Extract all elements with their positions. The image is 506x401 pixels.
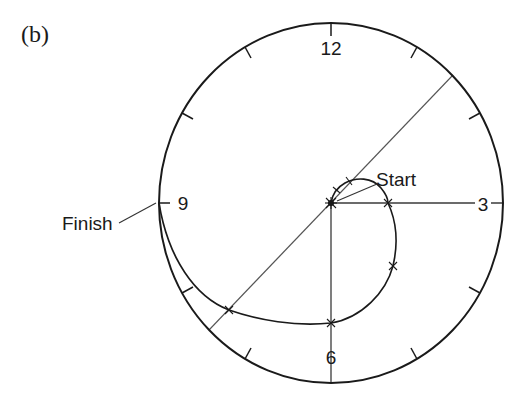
panel-label: (b) bbox=[21, 21, 49, 47]
marker-6 bbox=[225, 306, 233, 314]
tick-1 bbox=[411, 47, 417, 58]
hour-label-3: 3 bbox=[478, 194, 489, 215]
clock-diagram: (b) 12 3 6 9 bbox=[0, 0, 506, 401]
trajectory-path bbox=[159, 179, 396, 324]
tick-8 bbox=[182, 287, 193, 293]
tick-11 bbox=[245, 47, 251, 58]
tick-5 bbox=[411, 348, 417, 359]
finish-label: Finish bbox=[62, 213, 113, 234]
marker-start-center bbox=[325, 197, 337, 209]
finish-leader-line bbox=[119, 203, 156, 223]
diagram-canvas: (b) 12 3 6 9 bbox=[0, 0, 506, 401]
tick-7 bbox=[245, 348, 251, 359]
tick-2 bbox=[469, 113, 480, 119]
start-label: Start bbox=[376, 169, 417, 190]
start-leader-line bbox=[337, 184, 377, 201]
hour-label-9: 9 bbox=[178, 193, 189, 214]
tick-4 bbox=[469, 287, 480, 293]
trajectory-markers bbox=[225, 177, 397, 327]
hour-label-12: 12 bbox=[320, 38, 341, 59]
tick-10 bbox=[182, 113, 193, 119]
hour-ticks bbox=[159, 23, 480, 359]
hour-label-6: 6 bbox=[326, 347, 337, 368]
